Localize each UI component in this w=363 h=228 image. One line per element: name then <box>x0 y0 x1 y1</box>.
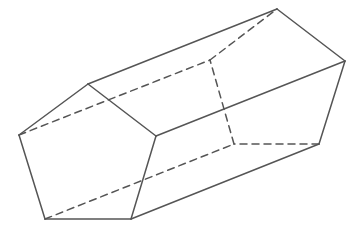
hidden-edge-F4-B4 <box>45 144 234 219</box>
edge-F1-B1 <box>88 9 277 84</box>
edge-B2-B3 <box>319 61 345 144</box>
hidden-edge-B5-B1 <box>210 9 277 60</box>
prism-drawing <box>0 0 363 228</box>
hidden-edge-B4-B5 <box>210 60 234 144</box>
edge-F5-F1 <box>19 84 88 135</box>
edge-F4-F5 <box>19 135 45 219</box>
hidden-edge-F5-B5 <box>19 60 210 135</box>
pentagonal-prism-diagram <box>0 0 363 228</box>
edge-F1-F2 <box>88 84 156 136</box>
edge-B1-B2 <box>277 9 345 61</box>
edge-F2-F3 <box>131 136 156 219</box>
hidden-edges <box>19 9 319 219</box>
visible-edges <box>19 9 345 219</box>
edge-F2-B2 <box>156 61 345 136</box>
edge-F3-B3 <box>131 144 319 219</box>
